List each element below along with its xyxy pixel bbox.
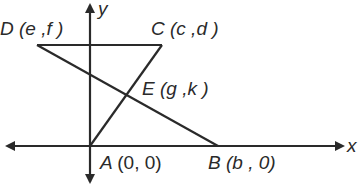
point-B-label: B (b , 0) bbox=[208, 152, 276, 174]
point-D-coords: (e ,f ) bbox=[19, 18, 63, 39]
point-B-coords: (b , 0) bbox=[226, 152, 276, 173]
point-A-label: A (0, 0) bbox=[100, 152, 162, 174]
point-C-coords: (c ,d ) bbox=[170, 18, 219, 39]
point-E-name: E bbox=[142, 78, 155, 99]
point-C-name: C bbox=[151, 18, 165, 39]
point-B-name: B bbox=[208, 152, 221, 173]
point-A-coords: (0, 0) bbox=[117, 152, 161, 173]
point-D-label: D (e ,f ) bbox=[0, 18, 63, 40]
point-A-name: A bbox=[100, 152, 112, 173]
point-E-label: E (g ,k ) bbox=[142, 78, 209, 100]
y-axis-label: y bbox=[98, 0, 108, 20]
point-E-coords: (g ,k ) bbox=[160, 78, 209, 99]
point-C-label: C (c ,d ) bbox=[151, 18, 219, 40]
x-axis-label: x bbox=[347, 135, 357, 157]
point-D-name: D bbox=[0, 18, 14, 39]
